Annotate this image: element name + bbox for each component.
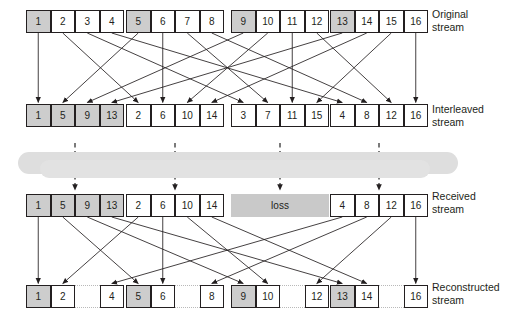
cell-packet: 3 bbox=[75, 10, 100, 33]
cell-packet: 8 bbox=[355, 104, 380, 127]
cell-missing bbox=[175, 285, 200, 308]
row-label-interleaved: Interleaved stream bbox=[432, 103, 484, 128]
cell-packet: 16 bbox=[404, 194, 429, 217]
cell-packet: 14 bbox=[200, 194, 225, 217]
cell-packet: 1 bbox=[26, 104, 51, 127]
cell-packet: 5 bbox=[51, 104, 76, 127]
cell-packet: 4 bbox=[330, 194, 355, 217]
loss-block: loss bbox=[231, 194, 329, 217]
cell-packet: 2 bbox=[126, 194, 151, 217]
cell-packet: 15 bbox=[305, 104, 330, 127]
cell-packet: 8 bbox=[200, 285, 225, 308]
cell-packet: 16 bbox=[404, 104, 429, 127]
cell-packet: 2 bbox=[126, 104, 151, 127]
row-label-reconstructed: Reconstructed stream bbox=[432, 281, 500, 306]
cell-packet: 8 bbox=[200, 10, 225, 33]
interleave-connectors bbox=[38, 33, 416, 103]
cell-packet: 5 bbox=[126, 285, 151, 308]
cell-packet: 2 bbox=[51, 285, 76, 308]
cell-packet: 15 bbox=[379, 10, 404, 33]
cell-packet: 10 bbox=[256, 285, 281, 308]
cell-packet: 5 bbox=[51, 194, 76, 217]
cell-packet: 13 bbox=[330, 285, 355, 308]
cell-packet: 4 bbox=[330, 104, 355, 127]
cell-packet: 11 bbox=[280, 104, 305, 127]
cell-packet: 3 bbox=[231, 104, 256, 127]
deinterleave-connectors bbox=[38, 217, 416, 284]
cell-packet: 14 bbox=[355, 285, 380, 308]
cell-packet: 7 bbox=[256, 104, 281, 127]
cell-packet: 2 bbox=[51, 10, 76, 33]
cell-packet: 6 bbox=[151, 10, 176, 33]
cell-packet: 12 bbox=[305, 285, 330, 308]
cell-packet: 7 bbox=[175, 10, 200, 33]
cell-packet: 1 bbox=[26, 194, 51, 217]
cell-packet: 1 bbox=[26, 10, 51, 33]
cell-packet: 1 bbox=[26, 285, 51, 308]
cell-packet: 12 bbox=[379, 194, 404, 217]
cell-packet: 13 bbox=[330, 10, 355, 33]
row-label-original: Original stream bbox=[432, 8, 468, 33]
cell-packet: 4 bbox=[100, 285, 125, 308]
cell-packet: 9 bbox=[231, 10, 256, 33]
cell-packet: 6 bbox=[151, 285, 176, 308]
cell-packet: 12 bbox=[379, 104, 404, 127]
cell-packet: 11 bbox=[280, 10, 305, 33]
channel-cloud-lower bbox=[40, 160, 430, 178]
cell-packet: 12 bbox=[305, 10, 330, 33]
diagram-canvas: 1234567891011121314151615913261014371115… bbox=[0, 0, 512, 326]
cell-packet: 8 bbox=[355, 194, 380, 217]
cell-packet: 4 bbox=[100, 10, 125, 33]
cell-packet: 10 bbox=[175, 104, 200, 127]
cell-packet: 9 bbox=[75, 104, 100, 127]
cell-packet: 16 bbox=[404, 10, 429, 33]
cell-packet: 6 bbox=[151, 194, 176, 217]
cell-packet: 13 bbox=[100, 194, 125, 217]
cell-missing bbox=[75, 285, 100, 308]
cell-packet: 10 bbox=[175, 194, 200, 217]
cell-packet: 9 bbox=[231, 285, 256, 308]
cell-packet: 13 bbox=[100, 104, 125, 127]
cell-packet: 9 bbox=[75, 194, 100, 217]
row-label-received: Received stream bbox=[432, 190, 476, 215]
cell-missing bbox=[280, 285, 305, 308]
cell-packet: 5 bbox=[126, 10, 151, 33]
cell-packet: 14 bbox=[200, 104, 225, 127]
cell-missing bbox=[379, 285, 404, 308]
cell-packet: 16 bbox=[404, 285, 429, 308]
cell-packet: 6 bbox=[151, 104, 176, 127]
cell-packet: 14 bbox=[355, 10, 380, 33]
cell-packet: 10 bbox=[256, 10, 281, 33]
